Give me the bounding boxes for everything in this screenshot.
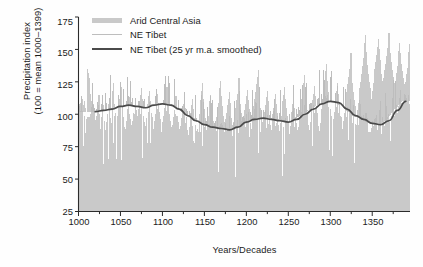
legend-label: Arid Central Asia [130, 15, 201, 26]
legend-label: NE Tibet (25 yr m.a. smoothed) [130, 44, 262, 55]
precipitation-index-chart: Precipitation index (100 = mean 1000–139… [0, 0, 423, 267]
thin-line-swatch-icon [92, 28, 122, 42]
legend-item-arid-central-asia: Arid Central Asia [92, 13, 262, 28]
area-swatch-icon [92, 13, 122, 27]
legend-label: NE Tibet [130, 29, 166, 40]
legend-item-ne-tibet-smoothed: NE Tibet (25 yr m.a. smoothed) [92, 42, 262, 57]
legend-item-ne-tibet: NE Tibet [92, 28, 262, 43]
legend: Arid Central Asia NE Tibet NE Tibet (25 … [92, 13, 262, 57]
thick-line-swatch-icon [92, 42, 122, 56]
